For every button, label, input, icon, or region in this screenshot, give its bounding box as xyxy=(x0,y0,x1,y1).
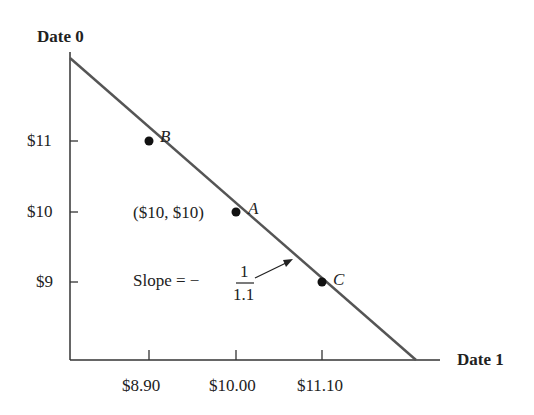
slope-numerator: 1 xyxy=(240,262,249,282)
point-a-coords: ($10, $10) xyxy=(133,203,204,223)
point-c xyxy=(318,278,327,287)
slope-label: Slope = − xyxy=(133,271,199,291)
x-ticks xyxy=(149,350,322,360)
x-axis-title: Date 1 xyxy=(457,350,504,370)
y-tick-label: $10 xyxy=(27,202,53,222)
y-tick-label: $11 xyxy=(27,131,52,151)
point-c-label: C xyxy=(333,270,344,290)
y-axis-title: Date 0 xyxy=(37,27,84,47)
slope-arrow xyxy=(255,259,293,278)
slope-denominator: 1.1 xyxy=(233,285,254,305)
y-tick-label: $9 xyxy=(36,272,53,292)
x-tick-label: $10.00 xyxy=(209,376,256,396)
y-ticks xyxy=(70,141,78,282)
x-tick-label: $8.90 xyxy=(122,376,160,396)
budget-line xyxy=(70,58,416,360)
point-a xyxy=(232,208,241,217)
point-b-label: B xyxy=(160,127,170,147)
point-b xyxy=(145,137,154,146)
chart-canvas xyxy=(0,0,534,415)
point-a-label: A xyxy=(248,199,258,219)
x-tick-label: $11.10 xyxy=(297,376,343,396)
